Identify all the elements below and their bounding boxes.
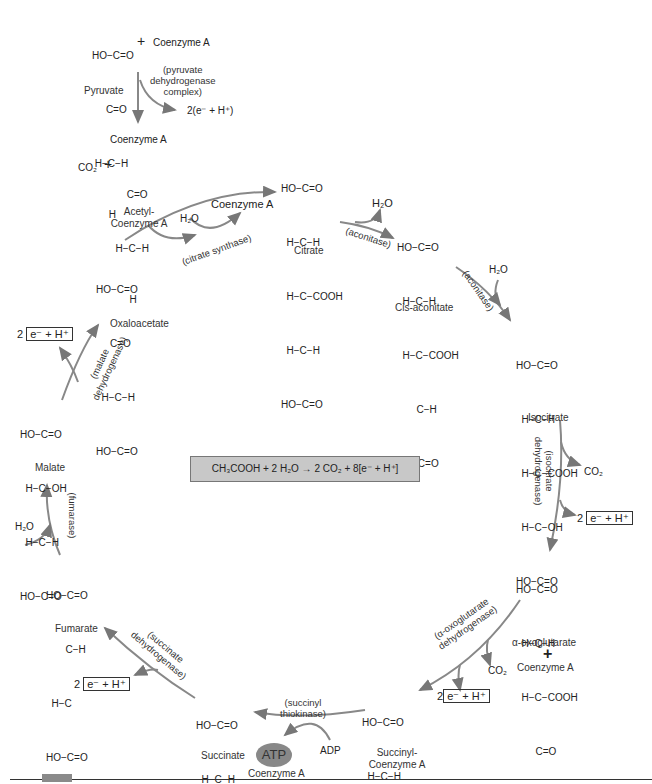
plus-sign: + bbox=[104, 158, 112, 170]
enzyme-line: thiokinase) bbox=[280, 708, 326, 719]
footer-block bbox=[42, 774, 72, 782]
enzyme-line: dehydrogenase) bbox=[533, 437, 544, 506]
acetyl-coa-label: Acetyl- Coenzyme A bbox=[108, 206, 170, 230]
electrons-box: e⁻ + H⁺ bbox=[26, 327, 73, 341]
succinate-line: HO−C=O bbox=[196, 717, 238, 735]
malate-label: Malate bbox=[35, 462, 65, 474]
aog-line: HO−C=O bbox=[516, 581, 578, 599]
enzyme-line: (isocitrate bbox=[544, 437, 555, 506]
h2o-citrate-synthase: H₂O bbox=[180, 213, 199, 225]
fumarate-line: H−C bbox=[46, 695, 88, 713]
succinate-line: H−C−H bbox=[196, 771, 238, 784]
oxaloacetate-label: Oxaloacetate bbox=[110, 318, 169, 330]
malate-line: H−C−OH bbox=[20, 480, 67, 498]
enzyme-succinyl-thiokinase: (succinyl thiokinase) bbox=[280, 697, 326, 719]
coenzyme-a-reactant: Coenzyme A bbox=[153, 37, 210, 49]
enzyme-line: (pyruvate bbox=[150, 64, 216, 75]
succinyl-line: HO−C=O bbox=[362, 714, 445, 732]
cis-aconitate-line: C−H bbox=[397, 401, 459, 419]
co2-isocitrate: CO₂ bbox=[584, 466, 603, 478]
aog-line: C=O bbox=[516, 743, 578, 761]
coenzyme-a-aog: Coenzyme A bbox=[517, 662, 574, 674]
arrow-h2o-release1 bbox=[355, 210, 380, 223]
electrons-isocitrate: 2 e⁻ + H⁺ bbox=[577, 512, 633, 524]
plus-sign: + bbox=[137, 35, 145, 47]
electrons-box: e⁻ + H⁺ bbox=[586, 511, 633, 525]
electron-count: 2 bbox=[577, 512, 583, 524]
molecule-citrate: HO−C=O H−C−H H−C−COOH H−C−H HO−C=O bbox=[281, 144, 343, 432]
arrow-adp-atp bbox=[285, 724, 330, 740]
summary-equation: CH₃COOH + 2 H₂O → 2 CO₂ + 8[e⁻ + H⁺] bbox=[190, 456, 420, 482]
succinyl-coa-label: Succinyl- Coenzyme A bbox=[367, 747, 427, 771]
isocitrate-label: Isocitrate bbox=[528, 412, 569, 424]
cis-aconitate-line: H−C−COOH bbox=[397, 347, 459, 365]
acetyl-line: C=O bbox=[110, 186, 149, 204]
citrate-line: H−C−H bbox=[281, 342, 343, 360]
electrons-box: e⁻ + H⁺ bbox=[443, 689, 490, 703]
co2-aog: CO₂ bbox=[488, 665, 507, 677]
footer-rule bbox=[10, 779, 652, 780]
oxaloacetate-line: HO−C=O bbox=[96, 443, 138, 461]
h2o-aconitase-in: H₂O bbox=[489, 264, 508, 276]
pyruvate-label: Pyruvate bbox=[84, 85, 123, 97]
adp: ADP bbox=[320, 745, 341, 757]
cis-aconitate-line: HO−C=O bbox=[397, 239, 459, 257]
plus-sign: + bbox=[543, 648, 552, 660]
malate-line: H−C−H bbox=[20, 534, 67, 552]
enzyme-pyruvate-dehydrogenase: (pyruvate dehydrogenase complex) bbox=[150, 64, 216, 97]
arrow-electrons-succinate bbox=[135, 670, 158, 675]
cis-aconitate-label: Cis-aconitate bbox=[395, 302, 453, 314]
succinate-label: Succinate bbox=[201, 750, 245, 762]
aog-line: H−C−COOH bbox=[516, 689, 578, 707]
citrate-label: Citrate bbox=[294, 245, 323, 257]
pyruvate-line: HO−C=O bbox=[92, 47, 134, 65]
fumarate-label: Fumarate bbox=[55, 623, 98, 635]
arrow-electrons-aog bbox=[459, 665, 461, 690]
electrons-box: e⁻ + H⁺ bbox=[83, 677, 130, 691]
molecule-malate: HO−C=O H−C−OH H−C−H HO−C=O bbox=[20, 390, 67, 624]
atp-badge: ATP bbox=[256, 743, 292, 767]
enzyme-isocitrate-dehydrogenase: (isocitrate dehydrogenase) bbox=[533, 437, 555, 506]
citrate-line: H−C−COOH bbox=[281, 288, 343, 306]
fumarate-line: C−H bbox=[46, 641, 88, 659]
fumarate-line: HO−C=O bbox=[46, 749, 88, 767]
isocitrate-line: H−C−OH bbox=[516, 519, 578, 537]
h2o-aconitase-release: H₂O bbox=[372, 197, 393, 209]
molecule-cis-aconitate: HO−C=O H−C−H H−C−COOH C−H HO−C=O bbox=[397, 203, 459, 491]
pyruvate-line: C=O bbox=[92, 101, 134, 119]
molecule-succinate: HO−C=O H−C−H H−C−H HO−C=O bbox=[196, 681, 238, 784]
electrons-malate: 2 e⁻ + H⁺ bbox=[17, 328, 73, 340]
oxaloacetate-line: HO−C=O bbox=[96, 281, 138, 299]
acetyl-coa-coenzyme: Coenzyme A bbox=[110, 134, 167, 146]
enzyme-fumarase: (fumarase) bbox=[67, 493, 78, 539]
malate-line: HO−C=O bbox=[20, 588, 67, 606]
co2-byproduct: CO₂ bbox=[78, 162, 97, 174]
citrate-line: HO−C=O bbox=[281, 180, 343, 198]
enzyme-line: (succinyl bbox=[280, 697, 326, 708]
enzyme-line: dehydrogenase bbox=[150, 75, 216, 86]
malate-line: HO−C=O bbox=[20, 426, 67, 444]
electron-count: 2 bbox=[17, 328, 23, 340]
coenzyme-a-released: Coenzyme A bbox=[211, 198, 273, 210]
arrow-co2-aog bbox=[487, 640, 490, 665]
isocitrate-line: HO−C=O bbox=[516, 357, 578, 375]
citrate-line: HO−C=O bbox=[281, 396, 343, 414]
pdh-electrons: 2(e⁻ + H⁺) bbox=[187, 105, 233, 117]
enzyme-line: complex) bbox=[150, 86, 216, 97]
